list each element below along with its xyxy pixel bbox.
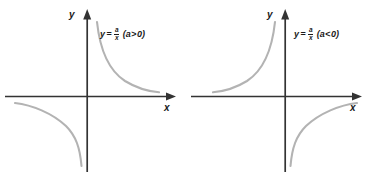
fraction-numerator: a [308,27,313,34]
x-axis-arrowhead [352,93,362,101]
y-axis-group [281,9,289,172]
equation-lhs: y [294,30,299,39]
equation-label-a-negative: y = a x (a<0) [294,27,339,42]
condition-close-paren: ) [336,29,339,39]
y-axis-label: y [69,10,75,20]
y-axis-label: y [267,10,273,20]
x-axis-arrowhead [166,93,176,101]
y-axis-arrowhead [83,9,91,20]
equation-fraction: a x [308,27,313,42]
equation-condition: (a<0) [317,30,339,39]
condition-close-paren: ) [142,29,145,39]
equation-label-a-positive: y = a x (a>0) [100,27,145,42]
fraction-numerator: a [114,27,119,34]
y-axis-arrowhead [281,9,289,20]
condition-operator: < [325,29,330,39]
hyperbola-figure: y x y = a x (a>0) [0,0,373,183]
curve-branch-quadrant-II [213,22,275,92]
x-axis-group [191,93,362,101]
fraction-denominator: x [308,35,313,42]
condition-operator: > [131,29,136,39]
chart-svg-a-positive [0,0,187,183]
x-axis-label: x [164,103,170,113]
chart-panel-a-positive: y x y = a x (a>0) [0,0,187,183]
chart-panel-a-negative: y x y = a x (a<0) [186,0,373,183]
equation-condition: (a>0) [123,30,145,39]
fraction-denominator: x [114,35,119,42]
equation-lhs: y [100,30,105,39]
equation-fraction: a x [114,27,119,42]
x-axis-label: x [350,103,356,113]
equation-equals-sign: = [107,30,112,39]
chart-svg-a-negative [186,0,373,183]
y-axis-group [83,9,91,172]
x-axis-group [5,93,176,101]
equation-equals-sign: = [301,30,306,39]
curve-branch-quadrant-III [15,103,82,166]
curve-branch-quadrant-IV [291,103,358,166]
